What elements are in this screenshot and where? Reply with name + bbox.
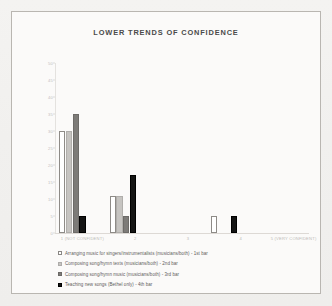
bars-layer: [56, 63, 309, 233]
chart-legend: Arranging music for singers/instrumental…: [58, 248, 283, 290]
legend-swatch-icon: [58, 262, 62, 266]
legend-swatch-icon: [58, 251, 62, 255]
legend-item-label: Composing song/hymn texts (musicians/bot…: [65, 261, 178, 266]
legend-swatch-icon: [58, 272, 62, 276]
plot-area: 05101520253035404550: [41, 63, 309, 234]
legend-item-label: Arranging music for singers/instrumental…: [65, 251, 208, 256]
legend-item: Composing song/hymn music (musicians/bot…: [58, 269, 283, 280]
bar-group: [208, 63, 259, 233]
bar: [116, 196, 122, 233]
bar: [66, 131, 72, 233]
legend-item: Composing song/hymn texts (musicians/bot…: [58, 259, 283, 270]
bar-group: [107, 63, 158, 233]
bar-group: [157, 63, 208, 233]
bar-group: [56, 63, 107, 233]
bar: [79, 216, 85, 233]
y-axis: 05101520253035404550: [41, 63, 55, 234]
legend-item-label: Composing song/hymn music (musicians/bot…: [65, 272, 179, 277]
bar: [123, 216, 129, 233]
x-axis-tick-label: 5 (VERY CONFIDENT): [271, 236, 317, 241]
legend-item-label: Teaching new songs (Bethel only) - 4th b…: [65, 282, 152, 287]
bar: [130, 175, 136, 233]
x-axis-tick-label: 4: [240, 236, 242, 241]
x-axis-line: [55, 233, 309, 234]
bar: [59, 131, 65, 233]
x-axis-tick-label: 3: [187, 236, 189, 241]
x-axis-tick-label: 2: [134, 236, 136, 241]
bar: [73, 114, 79, 233]
legend-item: Teaching new songs (Bethel only) - 4th b…: [58, 280, 283, 291]
bar: [211, 216, 217, 233]
bar: [231, 216, 237, 233]
bar: [110, 196, 116, 233]
x-axis-labels: 1 (NOT CONFIDENT)2345 (VERY CONFIDENT): [56, 236, 320, 245]
figure-frame: LOWER TRENDS OF CONFIDENCE 0510152025303…: [11, 11, 321, 294]
legend-swatch-icon: [58, 283, 62, 287]
chart-title: LOWER TRENDS OF CONFIDENCE: [12, 28, 320, 37]
legend-item: Arranging music for singers/instrumental…: [58, 248, 283, 259]
x-axis-tick-label: 1 (NOT CONFIDENT): [61, 236, 104, 241]
bar-group: [258, 63, 309, 233]
